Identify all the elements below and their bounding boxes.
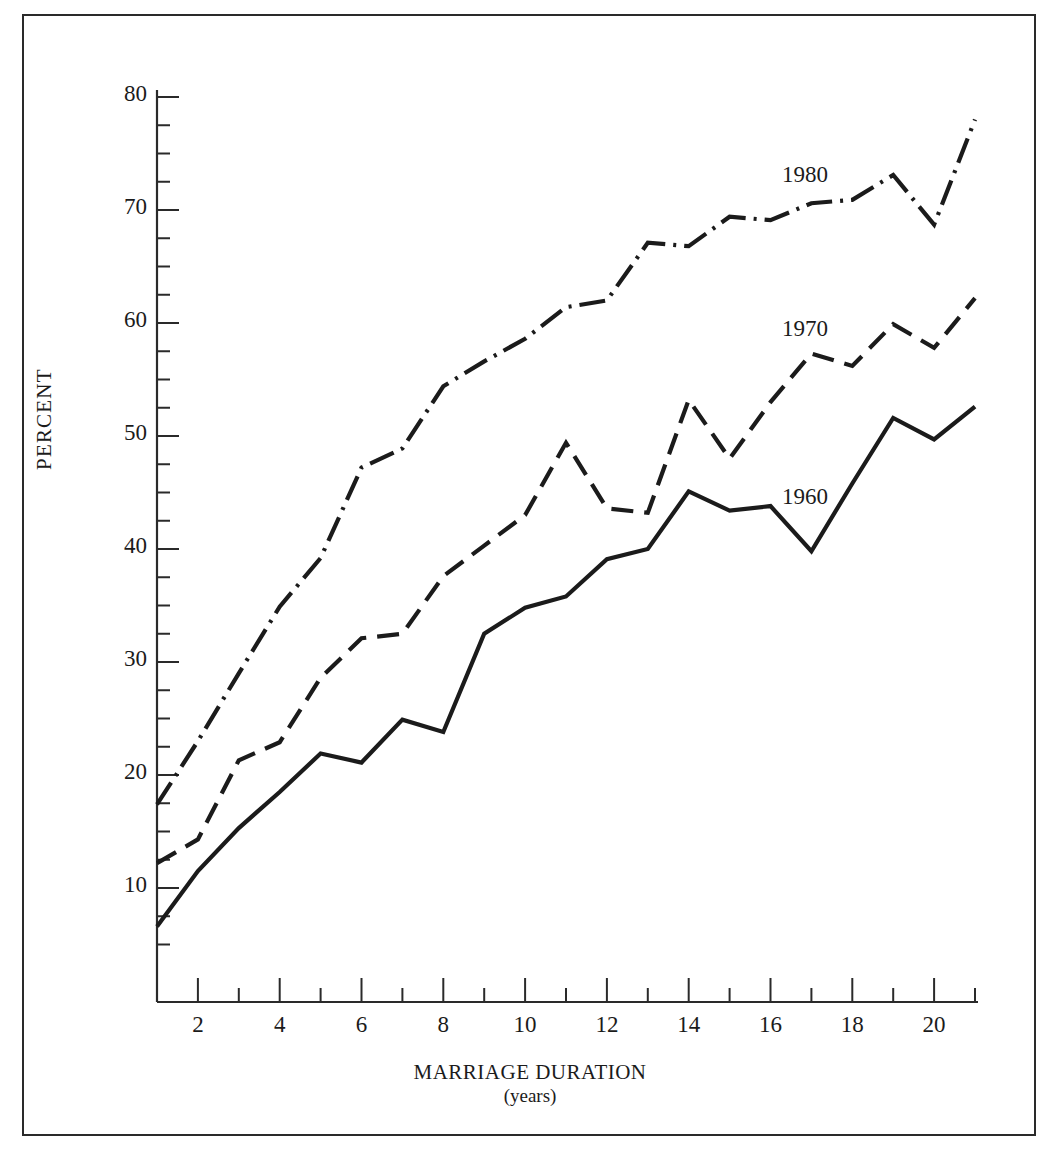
y-tick-label: 70 bbox=[101, 194, 147, 220]
y-tick-label: 50 bbox=[101, 420, 147, 446]
series-label-1970: 1970 bbox=[782, 316, 828, 342]
x-tick-label: 18 bbox=[832, 1012, 872, 1038]
y-tick-label: 30 bbox=[101, 646, 147, 672]
x-axis-title: MARRIAGE DURATION (years) bbox=[0, 1060, 1060, 1107]
y-tick-label: 60 bbox=[101, 307, 147, 333]
series-line-1980 bbox=[157, 120, 975, 805]
figure-container: PERCENT MARRIAGE DURATION (years) 807060… bbox=[0, 0, 1060, 1150]
series-label-1980: 1980 bbox=[782, 162, 828, 188]
y-tick-label: 10 bbox=[101, 872, 147, 898]
y-tick-label: 40 bbox=[101, 533, 147, 559]
x-tick-label: 8 bbox=[423, 1012, 463, 1038]
y-tick-label: 80 bbox=[101, 81, 147, 107]
x-tick-label: 16 bbox=[751, 1012, 791, 1038]
y-tick-label: 20 bbox=[101, 759, 147, 785]
series-line-1960 bbox=[157, 407, 975, 927]
x-axis-title-main: MARRIAGE DURATION bbox=[0, 1060, 1060, 1085]
x-tick-label: 2 bbox=[178, 1012, 218, 1038]
x-tick-label: 12 bbox=[587, 1012, 627, 1038]
x-tick-label: 14 bbox=[669, 1012, 709, 1038]
x-axis-title-units: (years) bbox=[0, 1085, 1060, 1107]
series-line-1970 bbox=[157, 298, 975, 863]
x-tick-label: 10 bbox=[505, 1012, 545, 1038]
x-tick-label: 6 bbox=[342, 1012, 382, 1038]
series-label-1960: 1960 bbox=[782, 484, 828, 510]
y-axis-title: PERCENT bbox=[32, 368, 57, 470]
x-tick-label: 4 bbox=[260, 1012, 300, 1038]
x-tick-label: 20 bbox=[914, 1012, 954, 1038]
line-chart-plot bbox=[0, 0, 1060, 1150]
